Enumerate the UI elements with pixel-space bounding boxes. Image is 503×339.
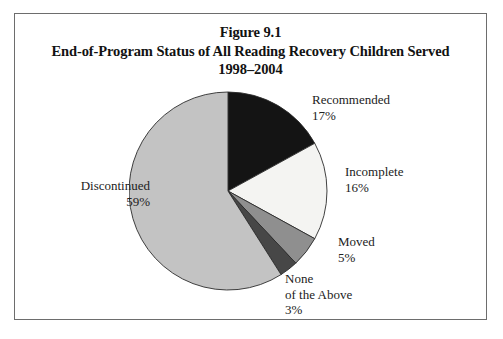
pie-label-recommended-name: Recommended (312, 92, 390, 108)
pie-label-none-of-the-above-line-1: None (285, 271, 352, 287)
figure-title: Figure 9.1 End-of-Program Status of All … (14, 23, 487, 79)
figure-title-line-3: 1998–2004 (14, 60, 487, 79)
pie-label-incomplete-name: Incomplete (345, 164, 403, 180)
pie-label-recommended-value: 17% (312, 108, 390, 124)
pie-label-none-of-the-above-value: 3% (285, 302, 352, 318)
figure-title-line-2: End-of-Program Status of All Reading Rec… (14, 42, 487, 61)
pie-slice-group (129, 92, 327, 290)
pie-label-discontinued-name: Discontinued (33, 178, 150, 194)
pie-label-incomplete-value: 16% (345, 180, 403, 196)
pie-label-moved-name: Moved (338, 234, 375, 250)
pie-label-discontinued: Discontinued 59% (33, 178, 150, 209)
pie-label-discontinued-value: 59% (33, 194, 150, 210)
figure-title-line-1: Figure 9.1 (14, 23, 487, 42)
pie-chart-svg (129, 85, 329, 297)
pie-label-incomplete: Incomplete 16% (345, 164, 403, 195)
pie-label-recommended: Recommended 17% (312, 92, 390, 123)
pie-label-none-of-the-above-line-2: of the Above (285, 287, 352, 303)
pie-label-moved-value: 5% (338, 250, 375, 266)
pie-chart (129, 85, 329, 297)
figure-container: Figure 9.1 End-of-Program Status of All … (0, 0, 503, 339)
pie-label-none-of-the-above: None of the Above 3% (285, 271, 352, 318)
pie-label-moved: Moved 5% (338, 234, 375, 265)
